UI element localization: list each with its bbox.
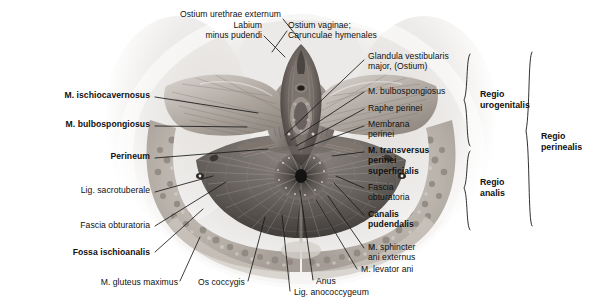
label-m-sphincter-ani-externus: M. sphincter ani externus: [368, 242, 488, 263]
label-regio-perinealis: Regio perinealis: [541, 131, 582, 152]
label-lig-sacrotuberale: Lig. sacrotuberale: [10, 185, 150, 195]
label-fossa-ischioanalis: Fossa ischioanalis: [10, 247, 150, 257]
label-glandula-vestibularis-major: Glandula vestibularis major, (Ostium): [368, 51, 488, 72]
glandula-vestibularis-right-ostium: [312, 133, 315, 136]
glandula-vestibularis-left-ostium: [288, 133, 291, 136]
label-fascia-obturatoria-right: Fascia obturatoria: [368, 182, 488, 203]
os-coccygis-body: [281, 241, 321, 259]
label-canalis-pudendalis: Canalis pudendalis: [368, 209, 488, 230]
label-lig-anococcygeum: Lig. anococcygeum: [294, 287, 414, 297]
label-regio-analis: Regio analis: [480, 177, 505, 198]
label-m-levator-ani: M. levator ani: [361, 264, 481, 274]
label-anus: Anus: [316, 276, 376, 286]
label-m-gluteus-maximus: M. gluteus maximus: [40, 277, 178, 287]
label-os-coccygis: Os coccygis: [198, 277, 288, 287]
label-regio-urogenitalis: Regio urogenitalis: [480, 89, 530, 110]
label-ostium-vaginae-caruncula: Ostium vaginae; Carunculae hymenales: [288, 20, 438, 41]
label-m-transversus-perinei-superficialis: M. transversus perinei superficialis: [368, 145, 488, 176]
label-raphe-perinei: Raphe perinei: [368, 103, 488, 113]
label-m-bulbospongiosus-left: M. bulbospongiosus: [10, 119, 150, 129]
label-membrana-perinei: Membrana perinei: [368, 119, 488, 140]
label-m-ischiocavernosus: M. ischiocavernosus: [10, 90, 150, 100]
anatomical-figure: Ostium urethrae externum Labium minus pu…: [0, 0, 602, 308]
label-labium-minus-pudendi: Labium minus pudendi: [102, 20, 262, 41]
label-fascia-obturatoria-left: Fascia obturatoria: [10, 220, 150, 230]
label-m-bulbospongiosus-right: M. bulbospongiosus: [368, 86, 488, 96]
label-ostium-urethrae-externum: Ostium urethrae externum: [121, 9, 281, 19]
label-perineum: Perineum: [10, 151, 150, 161]
